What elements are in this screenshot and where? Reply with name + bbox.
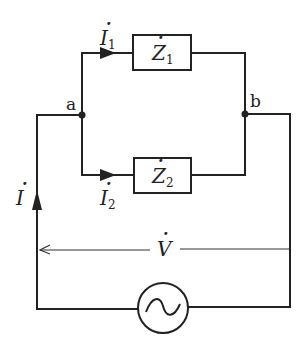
impedance-z2-label: ·Z2: [152, 166, 174, 189]
node-a-label: a: [66, 96, 76, 113]
wire-upper-right: [191, 53, 245, 114]
voltage-label: ·V: [157, 239, 171, 259]
current-i-label: ·I: [16, 188, 24, 208]
wire-outer-right: [188, 114, 290, 307]
circuit-diagram: a b ·I1 ·I2 ·I ·Z1 ·Z2 ·V: [0, 0, 305, 349]
wire-lower-right: [191, 114, 245, 175]
wire-upper-left: [82, 53, 133, 115]
current-i1-label: ·I1: [100, 28, 116, 51]
node-b-dot: [242, 111, 249, 118]
current-i-arrow-icon: [32, 190, 42, 210]
node-a-dot: [79, 112, 86, 119]
node-b-label: b: [250, 93, 261, 110]
wire-outer-left: [37, 115, 138, 309]
ac-wave-icon: [146, 299, 180, 315]
wire-lower-left: [82, 115, 134, 175]
current-i2-label: ·I2: [100, 188, 116, 211]
impedance-z1-label: ·Z1: [152, 43, 174, 66]
